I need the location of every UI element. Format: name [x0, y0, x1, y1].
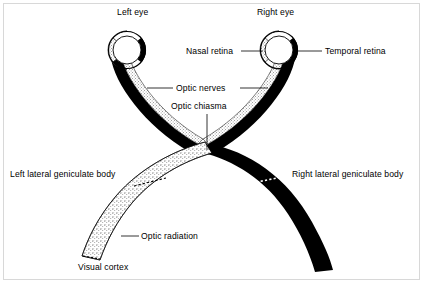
visual-pathway-illustration	[0, 0, 424, 284]
label-right-lateral-geniculate-body: Right lateral geniculate body	[292, 169, 403, 179]
label-temporal-retina: Temporal retina	[325, 46, 386, 56]
label-left-lateral-geniculate-body: Left lateral geniculate body	[10, 169, 116, 179]
right-optic-tract-and-radiation	[200, 144, 333, 272]
label-visual-cortex: Visual cortex	[78, 262, 128, 272]
label-optic-nerves: Optic nerves	[176, 83, 225, 93]
left-eye-globe	[108, 31, 146, 69]
label-left-eye: Left eye	[117, 7, 148, 17]
visual-pathway-figure: Left eye Right eye Nasal retina Temporal…	[0, 0, 424, 284]
label-optic-chiasma: Optic chiasma	[171, 101, 227, 111]
left-optic-tract-and-radiation	[82, 142, 212, 260]
right-eye-globe	[260, 31, 298, 69]
label-right-eye: Right eye	[257, 7, 294, 17]
label-nasal-retina: Nasal retina	[186, 46, 233, 56]
label-optic-radiation: Optic radiation	[141, 231, 198, 241]
